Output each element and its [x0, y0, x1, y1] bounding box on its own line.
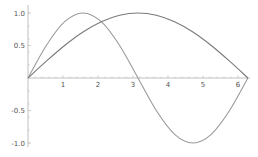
x-tick-label: 3 — [131, 81, 135, 89]
y-tick-label: -0.5 — [11, 107, 25, 115]
x-tick-label: 5 — [201, 81, 205, 89]
x-tick-label: 6 — [236, 81, 241, 89]
x-tick-label: 2 — [96, 81, 100, 89]
x-tick-label: 4 — [166, 81, 171, 89]
series-line-2 — [28, 13, 248, 78]
y-tick-label: 0.5 — [14, 42, 25, 50]
x-tick-label: 1 — [61, 81, 65, 89]
y-tick-label: -1.0 — [11, 140, 25, 148]
y-tick-label: 1.0 — [14, 10, 25, 18]
line-chart: 123456 1.00.5-0.5-1.0 — [0, 0, 258, 157]
axes — [28, 5, 250, 147]
